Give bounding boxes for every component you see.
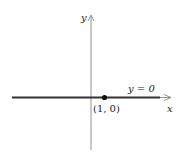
- diagram: y x y = 0 (1, 0): [0, 0, 182, 159]
- y-axis-label: y: [80, 12, 87, 23]
- point-label: (1, 0): [93, 103, 120, 114]
- line-equation-label: y = 0: [127, 83, 155, 94]
- x-axis-label: x: [167, 103, 173, 114]
- point-1-0: [102, 95, 107, 100]
